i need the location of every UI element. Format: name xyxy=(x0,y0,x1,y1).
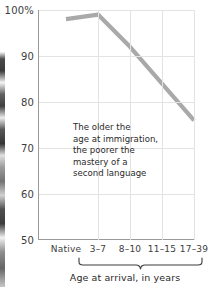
group-brace-icon xyxy=(78,258,203,270)
x-axis-title: Age at arrival, in years xyxy=(38,272,212,283)
gridline-horizontal xyxy=(39,194,195,195)
y-tick-label: 60 xyxy=(0,189,34,200)
y-axis-line xyxy=(38,10,39,240)
x-tick-label-8-10: 8–10 xyxy=(119,244,141,254)
gridline-horizontal xyxy=(39,56,195,57)
x-tick-label-17-39: 17–39 xyxy=(180,244,208,254)
gridline-vertical xyxy=(162,10,163,240)
chart-annotation: The older the age at immigration, the po… xyxy=(73,122,159,180)
gridline-horizontal xyxy=(39,102,195,103)
y-tick-label: 70 xyxy=(0,143,34,154)
chart-figure: 100% 90 80 70 60 50 The older the age at… xyxy=(0,0,212,289)
x-tick-label-native: Native xyxy=(51,244,81,254)
y-tick-label: 50 xyxy=(0,235,34,246)
x-axis-labels: Native 3–7 8–10 11–15 17–39 xyxy=(38,244,212,258)
gridline-horizontal xyxy=(39,10,195,11)
x-axis-line xyxy=(38,239,195,240)
x-tick-label-11-15: 11–15 xyxy=(148,244,176,254)
y-axis-labels: 100% 90 80 70 60 50 xyxy=(0,10,34,240)
y-tick-label: 100% xyxy=(0,5,34,16)
y-tick-label: 90 xyxy=(0,51,34,62)
x-tick-label-3-7: 3–7 xyxy=(90,244,107,254)
y-tick-label: 80 xyxy=(0,97,34,108)
gridline-vertical xyxy=(194,10,195,240)
